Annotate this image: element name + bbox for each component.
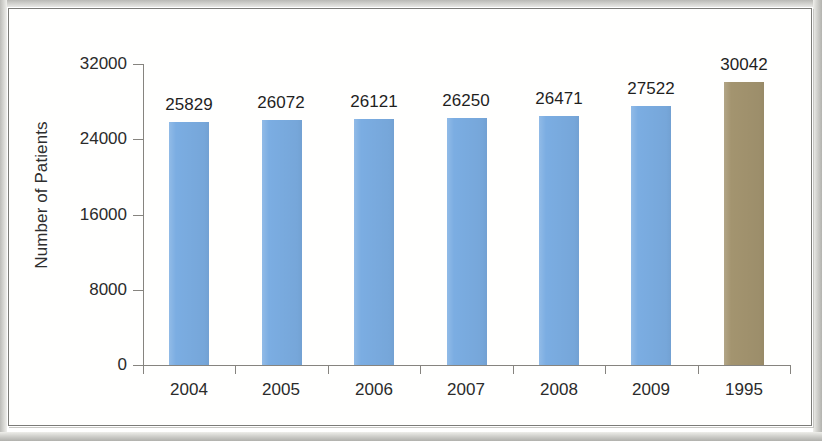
bar-shading [447, 118, 487, 365]
bar-value-label-2007: 26250 [420, 91, 512, 111]
y-axis-tick [133, 64, 143, 65]
y-axis-tick [133, 365, 143, 366]
x-axis-tick [143, 365, 144, 374]
y-axis-tick [133, 215, 143, 216]
bar-shading [631, 106, 671, 365]
bar-value-label-2008: 26471 [513, 89, 605, 109]
page-edge-bottom [0, 432, 822, 441]
x-axis-label-2008: 2008 [513, 380, 605, 400]
y-axis-tick-label: 24000 [80, 129, 127, 149]
bar-shading [169, 122, 209, 365]
bar-shading [724, 82, 764, 365]
bar-2004[interactable] [169, 122, 209, 365]
bar-2009[interactable] [631, 106, 671, 365]
x-axis-tick [698, 365, 699, 374]
bar-value-label-2006: 26121 [328, 92, 420, 112]
y-axis-tick [133, 290, 143, 291]
bar-2005[interactable] [262, 120, 302, 365]
x-axis-label-2005: 2005 [235, 380, 327, 400]
page-edge-right [813, 0, 822, 441]
x-axis-tick [420, 365, 421, 374]
figure-frame: Number of Patients 08000160002400032000 … [0, 0, 822, 441]
x-axis-label-2007: 2007 [420, 380, 512, 400]
y-axis-tick-label: 16000 [80, 205, 127, 225]
y-axis-tick-label: 32000 [80, 54, 127, 74]
bar-value-label-2005: 26072 [235, 93, 327, 113]
x-axis-line [143, 365, 790, 366]
y-axis-tick-label: 8000 [89, 280, 127, 300]
x-axis-label-2009: 2009 [605, 380, 697, 400]
x-axis-tick [328, 365, 329, 374]
y-axis-title: Number of Patients [32, 85, 52, 305]
x-axis-label-2004: 2004 [143, 380, 235, 400]
bar-2007[interactable] [447, 118, 487, 365]
x-axis-tick [790, 365, 791, 374]
y-axis-tick [133, 139, 143, 140]
bar-value-label-2004: 25829 [143, 95, 235, 115]
bar-shading [262, 120, 302, 365]
x-axis-tick [235, 365, 236, 374]
bar-2006[interactable] [354, 119, 394, 365]
bar-shading [539, 116, 579, 365]
bar-2008[interactable] [539, 116, 579, 365]
x-axis-label-1995: 1995 [698, 380, 790, 400]
plot-area: 08000160002400032000 2004200520062007200… [143, 64, 790, 366]
bar-1995[interactable] [724, 82, 764, 365]
x-axis-tick [513, 365, 514, 374]
bar-value-label-1995: 30042 [698, 55, 790, 75]
bar-value-label-2009: 27522 [605, 79, 697, 99]
bar-chart: Number of Patients 08000160002400032000 … [9, 9, 811, 425]
bar-shading [354, 119, 394, 365]
page-edge-top [0, 0, 822, 7]
page-edge-left [0, 0, 7, 441]
x-axis-tick [605, 365, 606, 374]
x-axis-label-2006: 2006 [328, 380, 420, 400]
y-axis-tick-label: 0 [118, 355, 127, 375]
